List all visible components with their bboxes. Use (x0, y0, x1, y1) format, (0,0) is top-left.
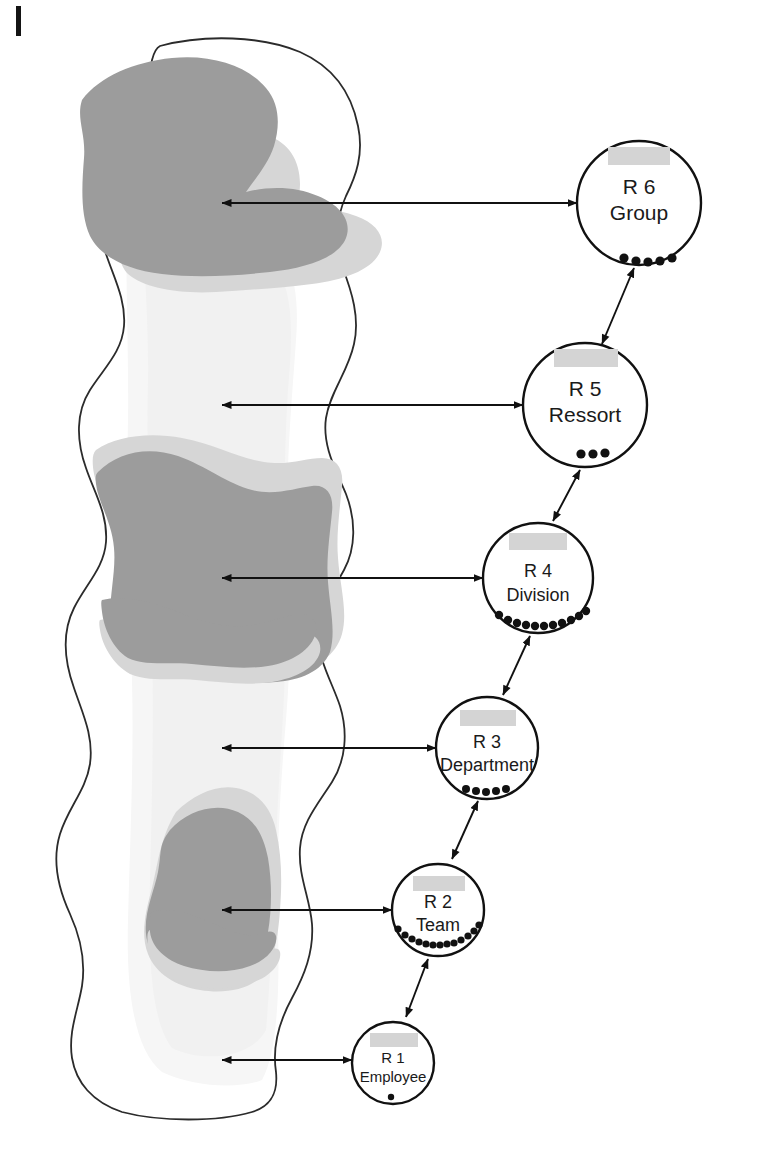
node-r2-redaction-bar (413, 876, 465, 891)
node-r4-redaction-bar (509, 533, 567, 550)
node-r1-code: R 1 (381, 1049, 404, 1066)
node-r4-name: Division (506, 585, 569, 605)
node-r6-redaction-bar (608, 147, 670, 165)
node-r5-name: Ressort (549, 403, 622, 426)
node-r6[interactable]: R 6 Group (577, 141, 701, 267)
node-r3-code: R 3 (473, 732, 501, 752)
node-r2-code: R 2 (424, 892, 452, 912)
node-r4[interactable]: R 4 Division (483, 523, 593, 633)
node-r6-code: R 6 (623, 175, 656, 198)
node-r1-redaction-bar (370, 1033, 418, 1047)
node-r3-name: Department (440, 755, 534, 775)
node-r5[interactable]: R 5 Ressort (523, 343, 647, 467)
node-r1-name: Employee (360, 1068, 427, 1085)
blob-region-top (80, 57, 382, 292)
link-r4-r5 (553, 470, 580, 521)
node-r5-redaction-bar (554, 349, 618, 367)
link-r5-r6 (602, 268, 634, 344)
node-r2[interactable]: R 2 Team (392, 864, 484, 956)
node-r1[interactable]: R 1 Employee (352, 1022, 434, 1104)
node-r6-name: Group (610, 201, 668, 224)
figure-canvas: R 6 Group R 5 Ressort (0, 0, 767, 1151)
node-r5-code: R 5 (569, 377, 602, 400)
node-r3-redaction-bar (460, 710, 516, 726)
node-r1-dots (388, 1094, 394, 1100)
blob-region-middle (93, 435, 345, 683)
diagram-svg: R 6 Group R 5 Ressort (0, 0, 767, 1151)
node-r5-dots (576, 448, 609, 458)
node-r3[interactable]: R 3 Department (436, 697, 538, 799)
node-r2-name: Team (416, 915, 460, 935)
link-r2-r3 (452, 801, 478, 859)
link-r1-r2 (406, 959, 428, 1017)
node-r4-code: R 4 (524, 561, 552, 581)
link-r3-r4 (503, 636, 530, 695)
